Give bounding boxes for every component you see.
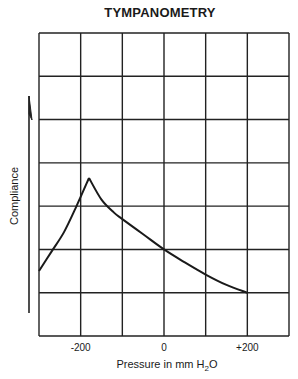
tympanogram-curve (39, 178, 247, 293)
x-axis-label-end: O (209, 358, 218, 370)
compliance-arrow-icon (29, 96, 32, 313)
x-tick-label: +200 (236, 342, 259, 353)
x-tick-label: 0 (161, 342, 167, 353)
x-axis-label-text: Pressure in mm H (116, 358, 204, 370)
grid (39, 33, 289, 336)
x-axis-label: Pressure in mm H2O (0, 358, 298, 373)
y-axis-label: Compliance (8, 167, 20, 225)
x-tick-label: -200 (71, 342, 91, 353)
plot-area (0, 0, 298, 379)
